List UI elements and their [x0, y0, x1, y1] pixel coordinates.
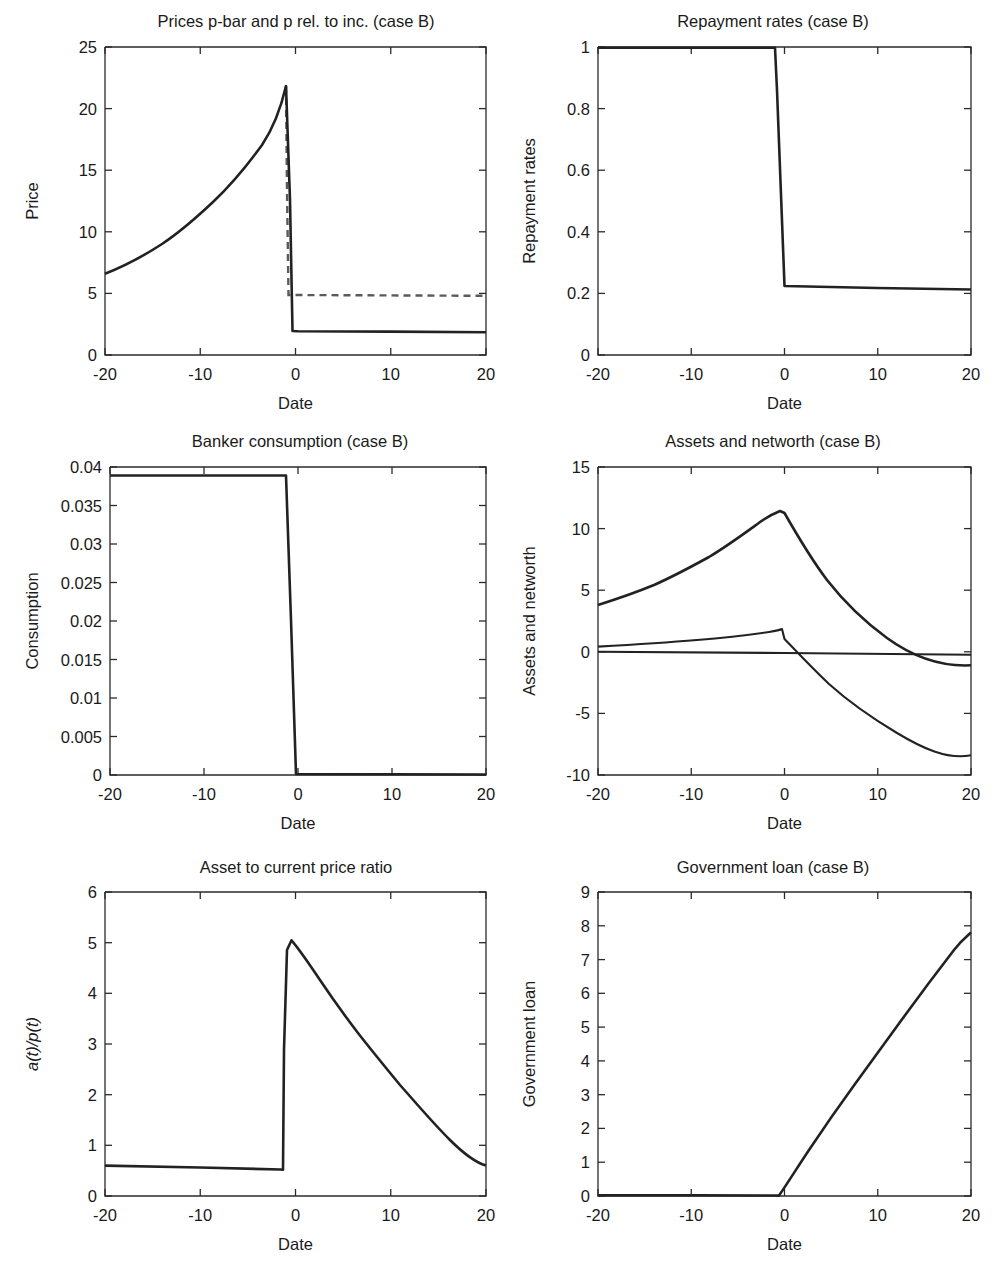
panel-govloan-xticks [598, 892, 971, 1196]
tick-label: 0.4 [567, 223, 590, 241]
panel-banker-title: Banker consumption (case B) [192, 432, 408, 450]
tick-label: 3 [88, 1035, 97, 1053]
tick-label: 1 [581, 1153, 590, 1171]
panel-prices-title: Prices p-bar and p rel. to inc. (case B) [158, 12, 435, 30]
tick-label: 2 [581, 1119, 590, 1137]
tick-label: 0.6 [567, 161, 590, 179]
tick-label: 2 [88, 1086, 97, 1104]
tick-label: 0 [581, 1187, 590, 1205]
tick-label: 0 [581, 643, 590, 661]
tick-label: 10 [869, 1206, 887, 1224]
tick-label: 15 [572, 458, 590, 476]
panel-govloan-xlabel: Date [767, 1235, 802, 1253]
panel-assets-ylabel: Assets and networth [520, 546, 538, 696]
panel-repayment: Repayment rates (case B) [497, 0, 997, 420]
tick-label: 20 [477, 1206, 495, 1224]
panel-repayment-ylabel: Repayment rates [520, 138, 538, 264]
tick-label: 1 [88, 1136, 97, 1154]
panel-ratio-yticks [105, 892, 486, 1196]
tick-label: 0 [293, 785, 302, 803]
panel-banker-yticks [110, 467, 486, 775]
tick-label: -20 [93, 365, 117, 383]
tick-label: -10 [679, 785, 703, 803]
tick-label: 6 [581, 984, 590, 1002]
tick-label: 10 [572, 520, 590, 538]
tick-label: 10 [383, 785, 401, 803]
tick-label: 5 [581, 1018, 590, 1036]
panel-ratio-axes [105, 892, 486, 1196]
tick-label: 4 [581, 1052, 590, 1070]
tick-label: 0.015 [61, 651, 102, 669]
tick-label: 15 [79, 161, 97, 179]
panel-prices-yticks [105, 47, 486, 355]
panel-repayment-xlabel: Date [767, 394, 802, 412]
panel-repayment-yticks [598, 47, 971, 355]
tick-label: 25 [79, 38, 97, 56]
panel-banker-ylabel: Consumption [23, 572, 41, 669]
panel-government-loan: Government loan (case B) [497, 840, 997, 1266]
tick-label: -10 [192, 785, 216, 803]
tick-label: -10 [188, 365, 212, 383]
tick-label: 0 [88, 346, 97, 364]
tick-label: 5 [581, 581, 590, 599]
tick-label: 20 [477, 785, 495, 803]
panel-banker-xlabel: Date [281, 814, 316, 832]
tick-label: 8 [581, 917, 590, 935]
series-pbar-dashed [286, 86, 486, 296]
tick-label: 0.035 [61, 497, 102, 515]
series-repayment [598, 48, 971, 290]
panel-govloan-ylabel: Government loan [520, 981, 538, 1108]
panel-govloan-yticks [598, 892, 971, 1196]
tick-label: 10 [382, 365, 400, 383]
tick-label: 20 [962, 1206, 980, 1224]
tick-label: 0 [291, 365, 300, 383]
panel-govloan-axes [598, 892, 971, 1196]
tick-label: -5 [575, 704, 590, 722]
tick-label: 0 [581, 346, 590, 364]
figure-root: Prices p-bar and p rel. to inc. (case B) [0, 0, 997, 1266]
tick-label: -20 [586, 365, 610, 383]
panel-assets-xlabel: Date [767, 814, 802, 832]
tick-label: 10 [79, 223, 97, 241]
tick-label: 9 [581, 883, 590, 901]
panel-repayment-axes [598, 47, 971, 355]
panel-prices-xticks [105, 47, 486, 355]
tick-label: -20 [586, 785, 610, 803]
tick-label: 0 [291, 1206, 300, 1224]
panel-repayment-xticks [598, 47, 971, 355]
tick-label: 0.01 [70, 689, 102, 707]
panel-banker-axes [110, 467, 486, 775]
tick-label: 0 [88, 1187, 97, 1205]
tick-label: 0 [780, 365, 789, 383]
panel-ratio-xlabel: Date [278, 1235, 313, 1253]
panel-ratio-title: Asset to current price ratio [200, 858, 393, 876]
series-zero-reference [598, 652, 971, 655]
panel-assets-title: Assets and networth (case B) [665, 432, 881, 450]
tick-label: 20 [79, 100, 97, 118]
tick-label: 20 [962, 785, 980, 803]
panel-prices-ylabel: Price [23, 182, 41, 220]
tick-label: -10 [679, 1206, 703, 1224]
tick-label: 0 [93, 766, 102, 784]
panel-govloan-title: Government loan (case B) [677, 858, 870, 876]
panel-prices-axes [105, 47, 486, 355]
panel-prices: Prices p-bar and p rel. to inc. (case B) [0, 0, 500, 420]
panel-asset-price-ratio: Asset to current price ratio [0, 840, 500, 1266]
tick-label: 0.02 [70, 612, 102, 630]
tick-label: -20 [98, 785, 122, 803]
tick-label: -20 [586, 1206, 610, 1224]
tick-label: 0 [780, 1206, 789, 1224]
tick-label: 0.8 [567, 100, 590, 118]
tick-label: 5 [88, 284, 97, 302]
tick-label: 4 [88, 984, 97, 1002]
series-government-loan [598, 933, 971, 1196]
tick-label: 20 [477, 365, 495, 383]
panel-banker-xticks [110, 467, 486, 775]
tick-label: -20 [93, 1206, 117, 1224]
tick-label: -10 [679, 365, 703, 383]
tick-label: 1 [581, 38, 590, 56]
tick-label: 20 [962, 365, 980, 383]
tick-label: 0.005 [61, 728, 102, 746]
panel-repayment-title: Repayment rates (case B) [677, 12, 869, 30]
series-banker-consumption [110, 476, 486, 775]
